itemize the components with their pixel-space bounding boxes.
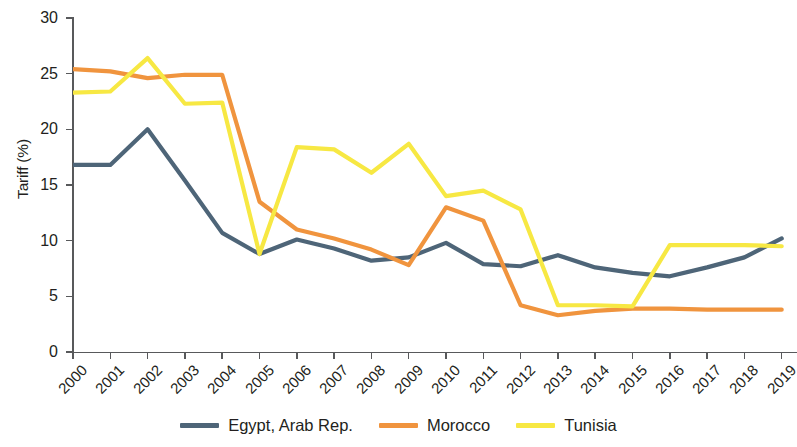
y-axis-tick-label: 15 (0, 177, 58, 193)
y-axis-tick (66, 296, 73, 298)
legend-color-swatch (516, 423, 555, 428)
y-axis-tick (66, 240, 73, 242)
y-axis-tick-label: 5 (0, 288, 58, 304)
legend-label: Tunisia (564, 417, 617, 434)
legend-label: Egypt, Arab Rep. (228, 417, 353, 434)
x-axis-tick (706, 352, 708, 359)
x-axis-tick (483, 352, 485, 359)
y-axis-tick-label: 20 (0, 121, 58, 137)
legend-item[interactable]: Egypt, Arab Rep. (180, 417, 353, 434)
x-axis-tick (184, 352, 186, 359)
x-axis-tick (333, 352, 335, 359)
y-axis-tick-label: 30 (0, 10, 58, 26)
plot-area (73, 18, 797, 352)
x-axis-tick (445, 352, 447, 359)
x-axis-tick (72, 352, 74, 359)
y-axis-tick (66, 129, 73, 131)
y-axis-tick-label: 25 (0, 66, 58, 82)
x-axis-tick (781, 352, 783, 359)
x-axis-tick (520, 352, 522, 359)
series-line (73, 58, 782, 306)
y-axis-tick (66, 184, 73, 186)
x-axis-tick (221, 352, 223, 359)
y-axis-tick-label: 0 (0, 344, 58, 360)
legend-color-swatch (180, 423, 219, 428)
x-axis-tick (147, 352, 149, 359)
y-axis-tick (66, 17, 73, 19)
x-axis-tick (744, 352, 746, 359)
series-line (73, 69, 782, 315)
x-axis-tick (557, 352, 559, 359)
x-axis-tick (594, 352, 596, 359)
x-axis-tick (669, 352, 671, 359)
y-axis-tick-label: 10 (0, 233, 58, 249)
x-axis-tick (408, 352, 410, 359)
legend-color-swatch (379, 423, 418, 428)
y-axis-tick (66, 73, 73, 75)
series-lines (73, 18, 797, 352)
x-axis-tick (259, 352, 261, 359)
tariff-line-chart: Tariff (%) 051015202530 2000200120022003… (0, 0, 797, 447)
y-axis-title: Tariff (%) (14, 99, 32, 239)
legend-label: Morocco (427, 417, 490, 434)
x-axis-tick (296, 352, 298, 359)
x-axis-tick (632, 352, 634, 359)
series-line (73, 129, 782, 276)
x-axis-tick (371, 352, 373, 359)
legend-item[interactable]: Tunisia (516, 417, 617, 434)
legend-item[interactable]: Morocco (379, 417, 490, 434)
chart-legend: Egypt, Arab Rep.MoroccoTunisia (0, 417, 797, 434)
x-axis-tick (110, 352, 112, 359)
